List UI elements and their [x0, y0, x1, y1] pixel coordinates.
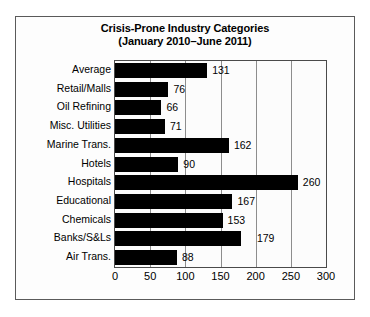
- bar-value-label: 66: [166, 100, 178, 115]
- chart-title: Crisis-Prone Industry Categories: [16, 22, 354, 35]
- bar: [115, 138, 229, 153]
- bar-value-label: 153: [228, 213, 246, 228]
- category-label: Oil Refining: [16, 99, 111, 114]
- chart-figure: Crisis-Prone Industry Categories (Januar…: [15, 16, 355, 300]
- category-label: Hotels: [16, 156, 111, 171]
- x-axis-tick-label: 0: [112, 270, 118, 282]
- x-axis-tick-label: 100: [176, 270, 194, 282]
- x-axis-tick-label: 150: [211, 270, 229, 282]
- bar-value-label: 88: [182, 250, 194, 265]
- bar: [115, 100, 161, 115]
- bar-value-label: 90: [183, 157, 195, 172]
- category-label: Air Trans.: [16, 249, 111, 264]
- chart-subtitle: (January 2010–June 2011): [16, 35, 354, 48]
- bar-value-label: 71: [170, 119, 182, 134]
- category-label: Retail/Malls: [16, 81, 111, 96]
- bar: [115, 175, 298, 190]
- value-axis-labels: 050100150200250300: [114, 270, 327, 286]
- bar: [115, 82, 168, 97]
- x-axis-tick-label: 300: [317, 270, 335, 282]
- bar: [115, 157, 178, 172]
- bar-value-label: 167: [237, 194, 255, 209]
- plot-area: 1317666711629026016715317988: [114, 60, 327, 268]
- x-axis-tick-label: 50: [144, 270, 156, 282]
- bars-layer: 1317666711629026016715317988: [115, 61, 326, 267]
- bar-value-label: 260: [303, 175, 321, 190]
- bar-value-label: 76: [173, 82, 185, 97]
- category-axis-labels: AverageRetail/MallsOil RefiningMisc. Uti…: [16, 60, 111, 268]
- category-label: Marine Trans.: [16, 137, 111, 152]
- bar: [115, 63, 207, 78]
- bar: [115, 231, 241, 246]
- chart-title-block: Crisis-Prone Industry Categories (Januar…: [16, 22, 354, 48]
- x-axis-tick-label: 250: [282, 270, 300, 282]
- bar: [115, 250, 177, 265]
- category-label: Hospitals: [16, 174, 111, 189]
- category-label: Banks/S&Ls: [16, 230, 111, 245]
- bar: [115, 194, 232, 209]
- category-label: Average: [16, 62, 111, 77]
- category-label: Misc. Utilities: [16, 118, 111, 133]
- category-label: Chemicals: [16, 212, 111, 227]
- category-label: Educational: [16, 193, 111, 208]
- bar-value-label: 162: [234, 138, 252, 153]
- x-axis-tick-label: 200: [246, 270, 264, 282]
- bar-value-label: 131: [212, 63, 230, 78]
- bar: [115, 119, 165, 134]
- bar: [115, 213, 223, 228]
- bar-value-label: 179: [257, 231, 275, 246]
